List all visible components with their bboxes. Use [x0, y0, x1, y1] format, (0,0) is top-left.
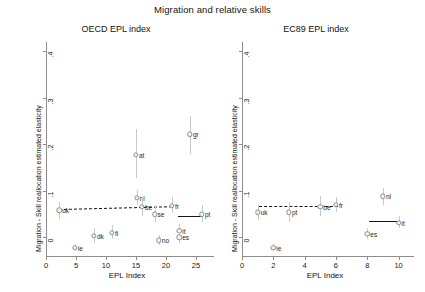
- data-point-label: fi: [115, 229, 118, 236]
- data-point-label: ie: [78, 244, 83, 251]
- x-tick-label: 8: [365, 261, 369, 270]
- data-point-marker[interactable]: [152, 211, 157, 216]
- data-point-marker[interactable]: [169, 203, 174, 208]
- data-point-label: es: [370, 230, 377, 237]
- x-axis-title: EPL Index: [109, 271, 146, 280]
- y-tick-label: .1: [243, 189, 250, 199]
- x-tick: [273, 257, 274, 260]
- data-point-label: be: [145, 203, 152, 210]
- data-point-label: es: [182, 234, 189, 241]
- data-point-label: gr: [193, 131, 199, 138]
- data-point-marker[interactable]: [396, 220, 401, 225]
- x-tick: [106, 257, 107, 260]
- x-tick-label: 2: [271, 261, 275, 270]
- y-tick-label: 0: [243, 236, 250, 246]
- data-point-marker[interactable]: [91, 233, 96, 238]
- x-tick-label: 6: [334, 261, 338, 270]
- x-tick-label: 10: [102, 261, 110, 270]
- y-tick-label: .4: [243, 50, 250, 60]
- data-point-label: se: [158, 211, 165, 218]
- panel-ec89-epl-index: EC89 EPL index 0.1.2.3.40246810EPL Index…: [216, 24, 416, 292]
- data-point-marker[interactable]: [380, 194, 385, 199]
- y-tick-label: .2: [243, 143, 250, 153]
- x-tick: [367, 257, 368, 260]
- data-point-label: dk: [97, 232, 104, 239]
- y-axis-title: Migration - Skill reallocation estimated…: [231, 105, 238, 252]
- y-tick-label: 0: [47, 236, 54, 246]
- chart-figure: Migration and relative skills OECD EPL i…: [0, 0, 425, 292]
- data-point-marker[interactable]: [365, 231, 370, 236]
- data-point-marker[interactable]: [156, 237, 161, 242]
- data-point-label: fr: [175, 202, 179, 209]
- data-point-marker[interactable]: [56, 208, 61, 213]
- x-tick-label: 0: [240, 261, 244, 270]
- data-point-label: no: [162, 237, 169, 244]
- y-axis-title: Migration - Skill reallocation estimated…: [35, 105, 42, 252]
- data-point-label: uk: [261, 209, 268, 216]
- x-axis-line: [242, 256, 414, 257]
- data-point-marker[interactable]: [72, 245, 77, 250]
- data-point-marker[interactable]: [176, 235, 181, 240]
- data-point-marker[interactable]: [134, 195, 139, 200]
- data-point-label: nl: [386, 193, 391, 200]
- data-point-marker[interactable]: [333, 202, 338, 207]
- x-axis-title: EPL Index: [307, 271, 344, 280]
- x-tick-label: 0: [44, 261, 48, 270]
- x-tick: [242, 257, 243, 260]
- x-tick: [76, 257, 77, 260]
- data-point-marker[interactable]: [255, 210, 260, 215]
- x-axis-line: [46, 256, 214, 257]
- data-point-label: it: [402, 219, 405, 226]
- x-tick: [166, 257, 167, 260]
- data-point-marker[interactable]: [199, 211, 204, 216]
- x-tick: [136, 257, 137, 260]
- x-tick-label: 20: [162, 261, 170, 270]
- y-tick-label: .3: [243, 96, 250, 106]
- x-tick: [46, 257, 47, 260]
- x-tick-label: 10: [394, 261, 402, 270]
- figure-title: Migration and relative skills: [0, 4, 425, 15]
- data-point-marker[interactable]: [187, 131, 192, 136]
- data-point-marker[interactable]: [133, 152, 138, 157]
- y-tick-label: .2: [47, 143, 54, 153]
- data-point-label: ie: [276, 244, 281, 251]
- y-tick-label: .4: [47, 50, 54, 60]
- x-tick: [196, 257, 197, 260]
- plot-area: 0.1.2.3.40510152025EPL IndexMigration - …: [18, 24, 214, 292]
- data-point-label: uk: [62, 207, 69, 214]
- data-point-label: at: [139, 151, 144, 158]
- plot-area: 0.1.2.3.40246810EPL IndexMigration - Ski…: [216, 24, 416, 292]
- x-tick-label: 25: [192, 261, 200, 270]
- x-tick-label: 4: [303, 261, 307, 270]
- y-tick-label: .3: [47, 96, 54, 106]
- data-point-label: fr: [339, 201, 343, 208]
- panel-oecd-epl-index: OECD EPL index 0.1.2.3.40510152025EPL In…: [18, 24, 214, 292]
- fit-line-solid: [178, 216, 203, 217]
- data-point-marker[interactable]: [318, 204, 323, 209]
- data-point-label: be: [323, 203, 330, 210]
- x-tick-label: 5: [74, 261, 78, 270]
- x-tick: [305, 257, 306, 260]
- data-point-marker[interactable]: [139, 204, 144, 209]
- data-point-label: pt: [292, 209, 297, 216]
- data-point-marker[interactable]: [271, 245, 276, 250]
- data-point-label: pt: [205, 211, 210, 218]
- y-tick-label: .1: [47, 189, 54, 199]
- x-tick: [399, 257, 400, 260]
- data-point-marker[interactable]: [109, 230, 114, 235]
- x-tick-label: 15: [132, 261, 140, 270]
- x-tick: [336, 257, 337, 260]
- data-point-marker[interactable]: [286, 210, 291, 215]
